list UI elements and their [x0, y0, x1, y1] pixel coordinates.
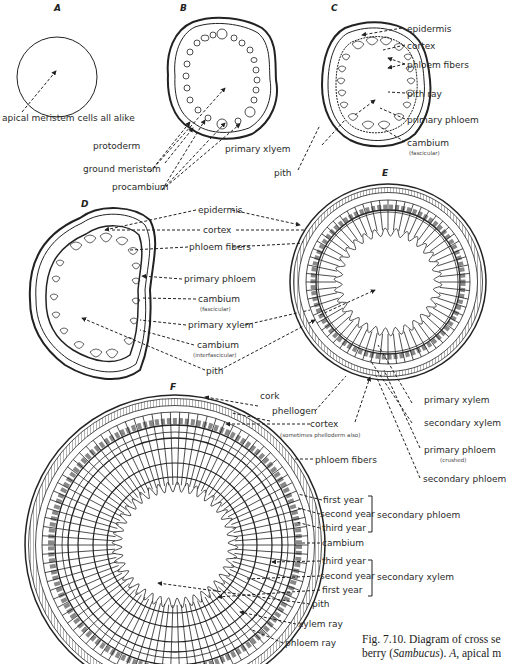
panel-label-e: E — [382, 168, 388, 178]
label-f-phloem-ray: phloem ray — [285, 638, 336, 648]
label-f-phloem-fibers: phloem fibers — [315, 455, 377, 465]
label-c-cortex: cortex — [407, 41, 435, 51]
label-f-sx-second-year: second year — [320, 571, 375, 581]
label-c-pith-ray: pith ray — [407, 89, 442, 99]
label-protoderm: protoderm — [93, 141, 140, 151]
label-d-cortex: cortex — [203, 225, 231, 235]
label-f-sx-first-year: first year — [322, 585, 363, 595]
label-f-cortex-sub: (sometimes phelloderm also) — [280, 432, 360, 438]
panel-label-a: A — [54, 3, 61, 13]
label-f-secondary-phloem-group: secondary phloem — [377, 510, 460, 520]
label-f-cork: cork — [260, 391, 279, 401]
label-f-sx-third-year: third year — [322, 556, 366, 566]
label-d-cambium-sub: (fascicular) — [200, 306, 231, 312]
label-procambium: procambium — [112, 182, 169, 192]
label-f-cortex: cortex — [310, 419, 338, 429]
label-d-cambium-interfascicular: cambium — [197, 340, 239, 350]
label-f-cambium: cambium — [322, 538, 364, 548]
panel-b-section — [150, 18, 277, 190]
label-e-primary-phloem-sub: (crushed) — [440, 457, 466, 463]
caption-line-1: Fig. 7.10. Diagram of cross se — [362, 632, 501, 646]
label-d-phloem-fibers: phloem fibers — [189, 242, 251, 252]
label-f-xylem-ray: xylem ray — [298, 619, 343, 629]
label-c-epidermis: epidermis — [407, 24, 452, 34]
label-d-pith: pith — [206, 366, 223, 376]
label-e-primary-xylem: primary xylem — [424, 395, 490, 405]
panel-d-section — [30, 208, 315, 379]
label-d-primary-xylem: primary xylem — [188, 320, 254, 330]
label-e-primary-phloem: primary phloem — [424, 445, 496, 455]
label-c-phloem-fibers: phloem fibers — [407, 60, 469, 70]
label-f-sp-first-year: first year — [323, 495, 364, 505]
label-apical-meristem: apical meristem cells all alike — [2, 113, 135, 123]
label-e-secondary-phloem: secondary phloem — [423, 474, 506, 484]
caption-line-2: berry (Sambucus). A, apical m — [362, 646, 501, 660]
label-c-primary-xylem: primary xlyem — [225, 144, 291, 154]
label-d-epidermis: epidermis — [198, 205, 243, 215]
label-d-cambium: cambium — [198, 294, 240, 304]
panel-label-b: B — [180, 3, 187, 13]
label-c-primary-phloem: primary phloem — [407, 115, 479, 125]
label-d-cambium-interfascicular-sub: (interfascicular) — [193, 352, 237, 358]
panel-label-d: D — [81, 199, 88, 209]
label-c-cambium-sub: (fascicular) — [409, 150, 440, 156]
panel-a-circle — [17, 37, 97, 117]
figure-caption: Fig. 7.10. Diagram of cross se berry (Sa… — [362, 632, 501, 660]
panel-label-c: C — [331, 3, 338, 13]
label-f-secondary-xylem-group: secondary xylem — [377, 572, 454, 582]
label-f-phellogen: phellogen — [272, 406, 316, 416]
panel-label-f: F — [170, 382, 176, 392]
label-c-cambium: cambium — [407, 138, 449, 148]
label-f-pith: pith — [312, 599, 329, 609]
label-c-pith: pith — [274, 168, 291, 178]
label-e-secondary-xylem: secondary xylem — [424, 418, 501, 428]
label-ground-meristem: ground meristem — [83, 164, 161, 174]
label-f-sp-second-year: second year — [320, 509, 375, 519]
label-d-primary-phloem: primary phloem — [184, 274, 256, 284]
label-f-sp-third-year: third year — [322, 523, 366, 533]
